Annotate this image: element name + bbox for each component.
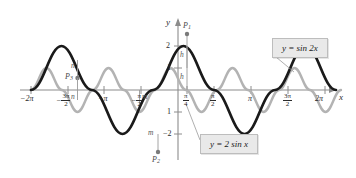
segment-label-n-lower: n — [71, 93, 75, 101]
y-tick-1: 1 — [167, 64, 171, 72]
segment-label-m-bottom: m — [148, 129, 153, 137]
callout-sin-2x: y = sin 2x — [272, 38, 328, 58]
point-label-P1: P1 — [183, 22, 191, 30]
x-tick-3pi-over-2: 3π2 — [283, 93, 292, 109]
point-label-P1-subscript: 1 — [188, 24, 191, 30]
y-tick-minus-2: −2 — [163, 130, 172, 138]
x-tick-2pi: 2π — [315, 95, 323, 103]
y-tick-2: 2 — [166, 42, 170, 50]
y-axis-label: y — [166, 18, 170, 27]
callout-2-sin-x: y = 2 sin x — [200, 134, 258, 154]
segment-label-h-lower: h — [180, 73, 184, 81]
x-axis-label: x — [339, 93, 343, 102]
segment-label-n-upper: n — [71, 62, 75, 70]
x-tick-minus-pi: −π — [98, 95, 107, 103]
x-tick-minus-pi-over-2: −π2 — [131, 93, 142, 109]
point-label-P2-subscript: 2 — [157, 158, 160, 164]
x-tick-minus-3pi-over-2: −3π2 — [56, 93, 70, 109]
y-tick-minus-1: 1 — [167, 108, 171, 116]
callout-2-sin-x-text: y = 2 sin x — [210, 139, 248, 149]
callout-sin-2x-text: y = sin 2x — [282, 43, 318, 53]
x-tick-pi-over-2: π2 — [210, 93, 216, 109]
point-P2-group — [156, 134, 160, 154]
point-label-P3: P3 — [65, 73, 73, 81]
segment-label-h-upper: h — [180, 51, 184, 59]
x-tick-pi-over-4: π4 — [183, 93, 189, 109]
x-tick-pi: π — [248, 95, 252, 103]
trig-graph-figure — [0, 0, 356, 178]
x-tick-minus-2pi: −2π — [20, 95, 33, 103]
point-label-P3-subscript: 3 — [70, 75, 73, 81]
y-axis — [175, 18, 181, 160]
point-label-P2: P2 — [152, 156, 160, 164]
segment-label-m-left: m — [142, 93, 147, 101]
